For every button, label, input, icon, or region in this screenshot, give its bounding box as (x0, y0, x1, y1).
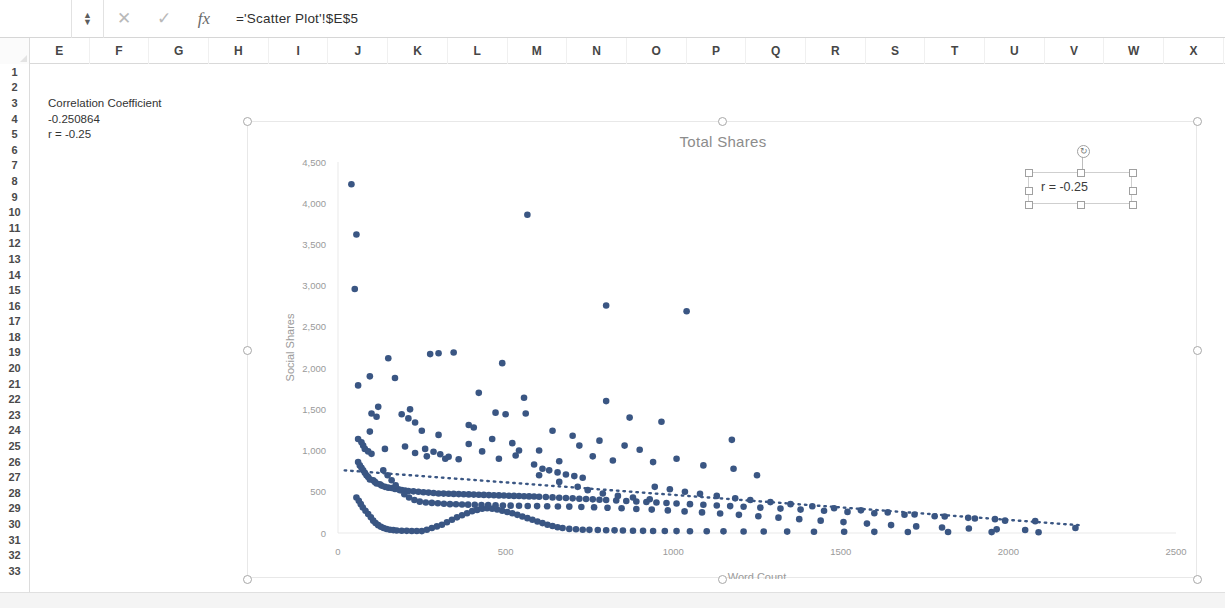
scatter-point (596, 496, 603, 503)
textbox-handle-top-right[interactable] (1129, 169, 1137, 177)
column-header-v[interactable]: V (1045, 38, 1105, 64)
scatter-point (618, 505, 625, 512)
scatter-point (603, 497, 610, 504)
column-header-j[interactable]: J (328, 38, 388, 64)
scatter-point (840, 519, 847, 526)
column-header-t[interactable]: T (925, 38, 985, 64)
cancel-icon[interactable]: ✕ (104, 0, 144, 38)
scatter-point (589, 453, 596, 460)
cell-e3[interactable]: Correlation Coefficient (48, 97, 162, 109)
row-header-30[interactable]: 30 (0, 516, 29, 532)
chart-handle-top-left[interactable] (243, 117, 252, 126)
chart-handle-top-right[interactable] (1193, 117, 1202, 126)
row-header-23[interactable]: 23 (0, 407, 29, 423)
chart-handle-top-center[interactable] (718, 117, 727, 126)
textbox-handle-bottom-left[interactable] (1025, 201, 1033, 209)
row-header-25[interactable]: 25 (0, 438, 29, 454)
row-header-22[interactable]: 22 (0, 391, 29, 407)
y-axis-label: Social Shares (284, 313, 296, 381)
column-header-e[interactable]: E (30, 38, 90, 64)
chart-handle-bottom-right[interactable] (1193, 575, 1202, 584)
row-header-27[interactable]: 27 (0, 469, 29, 485)
name-box-spinner[interactable]: ▲ ▼ (72, 0, 104, 38)
row-header-14[interactable]: 14 (0, 267, 29, 283)
row-header-11[interactable]: 11 (0, 220, 29, 236)
textbox-handle-middle-right[interactable] (1129, 187, 1137, 195)
textbox-handle-bottom-center[interactable] (1077, 201, 1085, 209)
rotate-icon[interactable]: ↻ (1077, 145, 1090, 158)
row-header-33[interactable]: 33 (0, 563, 29, 579)
scatter-point (478, 502, 485, 509)
row-header-16[interactable]: 16 (0, 298, 29, 314)
scatter-point (687, 528, 694, 535)
column-header-p[interactable]: P (687, 38, 747, 64)
row-header-3[interactable]: 3 (0, 95, 29, 111)
row-header-20[interactable]: 20 (0, 360, 29, 376)
row-header-15[interactable]: 15 (0, 282, 29, 298)
row-header-18[interactable]: 18 (0, 329, 29, 345)
row-header-9[interactable]: 9 (0, 189, 29, 205)
column-header-s[interactable]: S (866, 38, 926, 64)
column-header-f[interactable]: F (90, 38, 150, 64)
chart-handle-middle-right[interactable] (1193, 346, 1202, 355)
textbox-handle-top-center[interactable] (1077, 169, 1085, 177)
column-header-m[interactable]: M (508, 38, 568, 64)
cell-e5[interactable]: r = -0.25 (48, 128, 91, 140)
column-header-o[interactable]: O (627, 38, 687, 64)
scatter-point (667, 486, 674, 493)
row-header-13[interactable]: 13 (0, 251, 29, 267)
row-header-26[interactable]: 26 (0, 454, 29, 470)
row-header-1[interactable]: 1 (0, 64, 29, 80)
column-header-h[interactable]: H (209, 38, 269, 64)
spinner-down-icon[interactable]: ▼ (83, 19, 92, 26)
row-header-2[interactable]: 2 (0, 80, 29, 96)
column-header-l[interactable]: L (448, 38, 508, 64)
column-header-q[interactable]: Q (746, 38, 806, 64)
row-header-12[interactable]: 12 (0, 236, 29, 252)
scatter-point (683, 308, 690, 315)
column-header-k[interactable]: K (388, 38, 448, 64)
row-header-6[interactable]: 6 (0, 142, 29, 158)
row-header-5[interactable]: 5 (0, 126, 29, 142)
function-icon[interactable]: fx (184, 0, 224, 38)
cell-e4[interactable]: -0.250864 (48, 113, 100, 125)
chart-handle-bottom-center[interactable] (718, 575, 727, 584)
row-header-4[interactable]: 4 (0, 111, 29, 127)
textbox-annotation[interactable]: r = -0.25 ↻ (1028, 172, 1132, 204)
column-header-r[interactable]: R (806, 38, 866, 64)
scatter-point (630, 494, 637, 501)
formula-input[interactable]: ='Scatter Plot'!$E$5 (224, 0, 1225, 38)
check-icon[interactable]: ✓ (144, 0, 184, 38)
column-header-g[interactable]: G (149, 38, 209, 64)
row-header-29[interactable]: 29 (0, 501, 29, 517)
scatter-point (524, 503, 531, 510)
name-box[interactable] (0, 0, 72, 38)
column-header-x[interactable]: X (1164, 38, 1224, 64)
row-header-31[interactable]: 31 (0, 532, 29, 548)
chart-handle-bottom-left[interactable] (243, 575, 252, 584)
row-header-28[interactable]: 28 (0, 485, 29, 501)
scatter-point (492, 409, 499, 416)
row-header-17[interactable]: 17 (0, 314, 29, 330)
row-header-8[interactable]: 8 (0, 173, 29, 189)
textbox-handle-top-left[interactable] (1025, 169, 1033, 177)
row-header-21[interactable]: 21 (0, 376, 29, 392)
textbox-handle-bottom-right[interactable] (1129, 201, 1137, 209)
row-header-7[interactable]: 7 (0, 158, 29, 174)
column-header-n[interactable]: N (567, 38, 627, 64)
row-header-32[interactable]: 32 (0, 547, 29, 563)
scatter-point (450, 349, 457, 356)
row-header-19[interactable]: 19 (0, 345, 29, 361)
scatter-point (447, 501, 454, 508)
column-header-i[interactable]: I (269, 38, 329, 64)
x-axis-tick-label: 2000 (998, 546, 1019, 557)
row-header-10[interactable]: 10 (0, 204, 29, 220)
row-header-24[interactable]: 24 (0, 423, 29, 439)
textbox-handle-middle-left[interactable] (1025, 187, 1033, 195)
scatter-point (717, 510, 724, 517)
column-header-u[interactable]: U (985, 38, 1045, 64)
scatter-point (713, 502, 720, 509)
select-all-corner[interactable] (0, 38, 30, 64)
column-header-w[interactable]: W (1104, 38, 1164, 64)
chart-handle-middle-left[interactable] (243, 346, 252, 355)
